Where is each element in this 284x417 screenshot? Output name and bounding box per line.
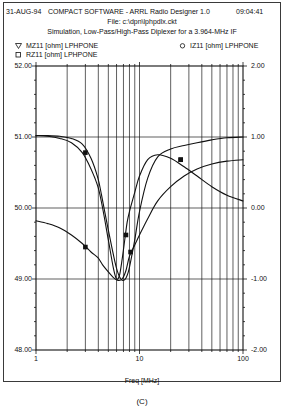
x-tick-label: 10 — [128, 355, 152, 363]
plot-page: 31-AUG-94 COMPACT SOFTWARE - ARRL Radio … — [0, 0, 284, 417]
figure-caption: (C) — [0, 397, 284, 407]
x-tick-label: 100 — [231, 355, 255, 363]
x-tick-label: 1 — [24, 355, 48, 363]
y-left-tick-label: 51.00 — [2, 133, 32, 141]
y-right-tick-label: -1.00 — [251, 275, 281, 283]
y-left-tick-label: 48.00 — [2, 346, 32, 354]
x-axis-title: Freq [MHz] — [0, 376, 284, 385]
data-point-marker — [83, 245, 88, 250]
data-point-marker — [178, 157, 183, 162]
chart-area: 48.0049.0050.0051.0052.00-2.00-1.000.001… — [0, 0, 284, 417]
y-left-tick-label: 49.00 — [2, 275, 32, 283]
y-left-tick-label: 50.00 — [2, 204, 32, 212]
data-point-marker — [128, 250, 133, 255]
y-right-tick-label: 0.00 — [251, 204, 281, 212]
y-right-tick-label: 1.00 — [251, 133, 281, 141]
y-right-tick-label: -2.00 — [251, 346, 281, 354]
y-right-tick-label: 2.00 — [251, 62, 281, 70]
y-left-tick-label: 52.00 — [2, 62, 32, 70]
data-point-marker — [124, 233, 129, 238]
